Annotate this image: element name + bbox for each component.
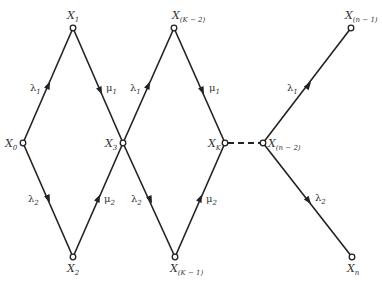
label-xn1: X(n − 1)	[344, 9, 378, 24]
arrow-down-icon	[198, 86, 207, 96]
label-xn: Xn	[346, 262, 360, 277]
label-x2: X2	[66, 262, 80, 277]
arrow-up-icon	[196, 193, 205, 203]
edge-xk2-xk	[174, 28, 225, 143]
rate-label-mu2: μ2	[104, 193, 116, 207]
label-x1: X1	[66, 9, 79, 24]
label-xk2: X(K − 2)	[171, 9, 206, 24]
rate-label-mu2: μ2	[206, 193, 218, 207]
arrow-down-icon	[96, 86, 105, 96]
node-x3	[120, 140, 126, 146]
node-xn1	[348, 25, 354, 31]
node-x2	[70, 254, 76, 260]
rate-label-lambda2: λ2	[28, 193, 39, 207]
label-xk: XK	[207, 137, 222, 152]
rate-label-lambda1: λ1	[130, 82, 141, 96]
node-xn2	[260, 140, 266, 146]
label-x3: X3	[104, 137, 118, 152]
node-xk2	[171, 25, 177, 31]
state-diagram: X0 X1 X2 X3 X(K − 2) X(K − 1) XK X(n − 2…	[0, 0, 382, 281]
label-xn2: X(n − 2)	[267, 137, 301, 152]
node-labels: X0 X1 X2 X3 X(K − 2) X(K − 1) XK X(n − 2…	[4, 9, 378, 277]
rate-label-lambda2: λ2	[315, 192, 326, 206]
arrow-up-icon	[144, 80, 153, 90]
edge-x1-x3	[73, 28, 123, 143]
rate-label-lambda1: λ1	[287, 82, 298, 96]
arrow-up-icon	[94, 193, 103, 203]
rate-label-lambda1: λ1	[30, 82, 41, 96]
rate-label-mu1: μ1	[209, 82, 220, 96]
node-xk	[222, 140, 228, 146]
label-xk1: X(K − 1)	[169, 262, 204, 277]
label-x0: X0	[4, 137, 18, 152]
rate-label-mu1: μ1	[106, 82, 117, 96]
node-xk1	[172, 254, 178, 260]
node-xn	[349, 254, 355, 260]
node-x0	[20, 140, 26, 146]
arrow-up-icon	[44, 80, 53, 90]
node-x1	[70, 25, 76, 31]
edges	[23, 28, 352, 257]
rate-label-lambda2: λ2	[131, 193, 142, 207]
